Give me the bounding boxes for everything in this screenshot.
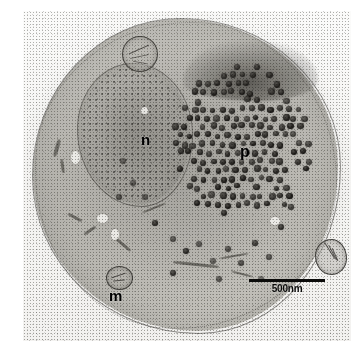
scale-bar-line <box>249 279 325 282</box>
label-mitochondrion: m <box>109 288 122 303</box>
label-virus-array: p <box>240 144 250 160</box>
figure-root: n p m 500nm <box>0 0 364 360</box>
electron-micrograph-image: n p m 500nm <box>23 11 351 341</box>
scale-bar: 500nm <box>249 279 325 294</box>
label-nucleus: n <box>141 132 150 147</box>
scale-bar-label: 500nm <box>249 284 325 294</box>
